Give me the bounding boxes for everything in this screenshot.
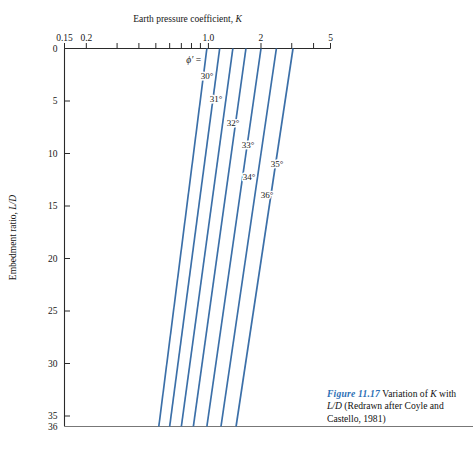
- curve-phi-32: [181, 49, 232, 427]
- curve-label-31: 31°: [210, 94, 223, 104]
- y-tick-label: 0: [53, 44, 58, 54]
- y-tick-label: 35: [48, 411, 58, 421]
- curve-label-35: 35°: [271, 159, 284, 169]
- y-tick-label: 10: [48, 149, 58, 159]
- y-tick-label: 20: [48, 254, 58, 264]
- curve-phi-33: [193, 49, 246, 427]
- curve-label-32: 32°: [227, 118, 240, 128]
- curve-phi-35: [221, 49, 276, 427]
- figure-number: Figure 11.17: [327, 388, 380, 399]
- x-tick-label: 5: [328, 33, 333, 43]
- curve-group: [159, 49, 293, 427]
- x-tick-label: 0.15: [56, 33, 73, 43]
- curve-phi-34: [207, 49, 261, 427]
- y-tick-label: 15: [48, 201, 58, 211]
- y-tick-label: 5: [53, 96, 58, 106]
- y-axis-title: Embedment ratio, L/D: [8, 195, 18, 280]
- curve-phi-31: [170, 49, 220, 427]
- curve-label-36: 36°: [261, 190, 274, 200]
- x-tick-label: 1.0: [202, 33, 214, 43]
- y-tick-label: 30: [48, 359, 58, 369]
- y-tick-label: 36: [48, 422, 58, 432]
- x-tick-label: 0.2: [80, 33, 92, 43]
- phi-annotation: ϕ′ =: [186, 55, 201, 65]
- y-tick-label: 25: [48, 306, 58, 316]
- variation-of-k-chart: 0.150.21.0250510152025303536Earth pressu…: [0, 0, 476, 451]
- x-axis-title: Earth pressure coefficient, K: [133, 14, 242, 24]
- curve-phi-36: [236, 49, 293, 427]
- figure-container: 0.150.21.0250510152025303536Earth pressu…: [0, 0, 476, 451]
- curve-label-34: 34°: [243, 172, 256, 182]
- curve-label-30: 30°: [201, 71, 214, 81]
- curve-phi-30: [159, 49, 207, 427]
- curve-label-33: 33°: [242, 140, 255, 150]
- figure-caption: Figure 11.17 Variation of K with L/D (Re…: [327, 388, 473, 425]
- x-tick-label: 2: [259, 33, 264, 43]
